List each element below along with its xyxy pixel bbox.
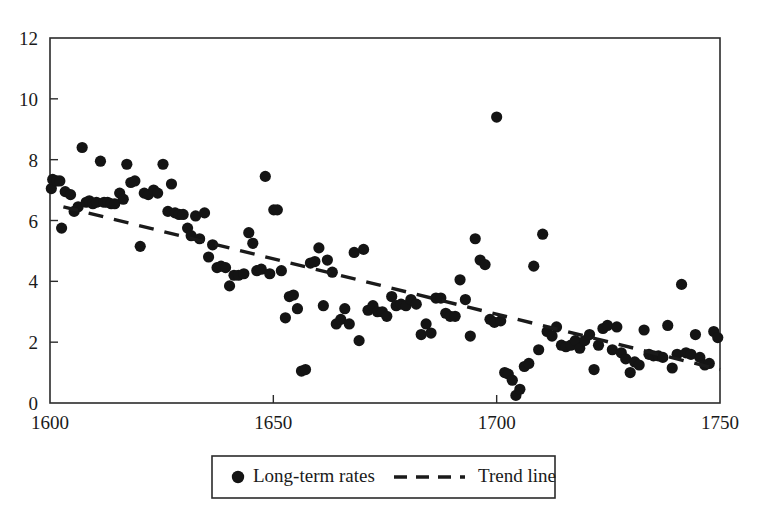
data-point: [203, 251, 214, 262]
data-points-layer: [46, 111, 724, 401]
y-tick-label: 6: [29, 211, 39, 232]
scatter-chart: 024681012 1600165017001750 Long-term rat…: [0, 0, 765, 515]
data-point: [479, 259, 490, 270]
data-point: [65, 189, 76, 200]
data-point: [690, 329, 701, 340]
data-point: [465, 330, 476, 341]
data-point: [152, 188, 163, 199]
data-point: [129, 175, 140, 186]
data-point: [625, 367, 636, 378]
data-point: [344, 318, 355, 329]
x-tick-label: 1700: [478, 412, 516, 433]
data-point: [353, 335, 364, 346]
chart-legend: Long-term rates Trend line: [212, 456, 556, 498]
data-point: [264, 268, 275, 279]
data-point: [416, 329, 427, 340]
data-point: [322, 254, 333, 265]
data-point: [309, 256, 320, 267]
data-point: [77, 142, 88, 153]
x-tick-label: 1750: [701, 412, 739, 433]
data-point: [634, 359, 645, 370]
data-point: [199, 207, 210, 218]
x-axis: 1600165017001750: [31, 395, 739, 433]
data-point: [611, 321, 622, 332]
y-tick-label: 2: [29, 332, 39, 353]
legend-label-long-term-rates: Long-term rates: [253, 465, 375, 486]
data-point: [514, 384, 525, 395]
y-tick-label: 4: [29, 271, 39, 292]
data-point: [178, 209, 189, 220]
x-tick-label: 1600: [31, 412, 69, 433]
data-point: [454, 274, 465, 285]
data-point: [358, 244, 369, 255]
data-point: [318, 300, 329, 311]
data-point: [280, 312, 291, 323]
data-point: [657, 352, 668, 363]
y-tick-label: 0: [29, 393, 39, 414]
y-tick-label: 8: [29, 150, 39, 171]
chart-figure: 024681012 1600165017001750 Long-term rat…: [0, 0, 765, 515]
data-point: [339, 303, 350, 314]
y-tick-label: 12: [19, 28, 38, 49]
data-point: [166, 178, 177, 189]
data-point: [54, 175, 65, 186]
data-point: [425, 327, 436, 338]
data-point: [121, 159, 132, 170]
data-point: [381, 311, 392, 322]
data-point: [238, 268, 249, 279]
data-point: [247, 238, 258, 249]
data-point: [292, 303, 303, 314]
data-point: [411, 299, 422, 310]
data-point: [272, 204, 283, 215]
data-point: [157, 159, 168, 170]
data-point: [56, 223, 67, 234]
data-point: [507, 375, 518, 386]
data-point: [260, 171, 271, 182]
data-point: [523, 358, 534, 369]
data-point: [313, 242, 324, 253]
trend-line: [63, 207, 720, 370]
data-point: [300, 364, 311, 375]
data-point: [288, 289, 299, 300]
data-point: [676, 279, 687, 290]
data-point: [667, 362, 678, 373]
data-point: [602, 320, 613, 331]
trend-line-layer: [63, 207, 720, 370]
data-point: [276, 265, 287, 276]
data-point: [450, 311, 461, 322]
legend-label-trend-line: Trend line: [478, 465, 556, 486]
x-tick-label: 1650: [254, 412, 292, 433]
data-point: [118, 194, 129, 205]
data-point: [638, 324, 649, 335]
data-point: [95, 156, 106, 167]
data-point: [528, 261, 539, 272]
legend-marker-scatter-icon: [232, 471, 244, 483]
y-axis: 024681012: [19, 28, 58, 414]
data-point: [470, 233, 481, 244]
data-point: [220, 262, 231, 273]
data-point: [588, 364, 599, 375]
data-point: [537, 229, 548, 240]
data-point: [662, 320, 673, 331]
data-point: [712, 332, 723, 343]
data-point: [135, 241, 146, 252]
data-point: [491, 111, 502, 122]
y-tick-label: 10: [19, 89, 38, 110]
data-point: [224, 280, 235, 291]
data-point: [460, 294, 471, 305]
data-point: [243, 227, 254, 238]
data-point: [533, 344, 544, 355]
